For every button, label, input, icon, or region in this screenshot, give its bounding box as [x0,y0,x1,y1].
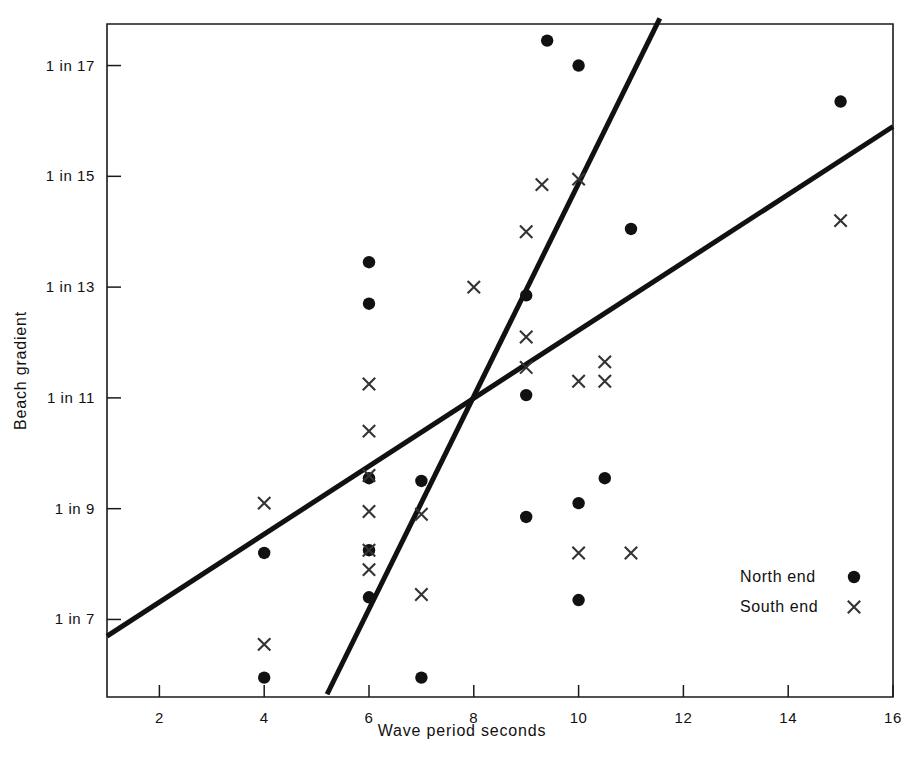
data-point-north-end [258,547,270,559]
data-point-south-end [599,356,611,368]
data-point-north-end [572,59,584,71]
data-point-south-end [520,331,532,343]
data-point-north-end [599,472,611,484]
data-point-south-end [599,375,611,387]
data-point-south-end [625,547,637,559]
data-point-north-end [258,671,270,683]
data-point-north-end [363,591,375,603]
data-point-south-end [572,547,584,559]
data-point-north-end [520,289,532,301]
data-point-north-end [572,594,584,606]
data-point-north-end [625,223,637,235]
scatter-plot-canvas: 2468101214161 in 71 in 91 in 111 in 131 … [0,0,916,757]
legend-marker-circle [848,571,860,583]
x-axis-title: Wave period seconds [378,722,546,739]
legend-label-south-end: South end [740,598,818,615]
data-point-north-end [834,95,846,107]
data-point-south-end [363,425,375,437]
data-point-south-end [258,497,270,509]
x-axis-tick-label: 6 [365,709,374,726]
data-point-south-end [258,638,270,650]
x-axis-tick-label: 16 [884,709,902,726]
data-point-north-end [572,497,584,509]
data-point-south-end [834,214,846,226]
chart-figure: 2468101214161 in 71 in 91 in 111 in 131 … [0,0,916,757]
data-point-south-end [572,375,584,387]
plot-frame [107,24,893,697]
data-point-north-end [363,298,375,310]
data-point-south-end [363,378,375,390]
legend-label-north-end: North end [740,568,816,585]
legend-marker-cross [848,601,860,613]
y-axis-title: Beach gradient [12,311,29,430]
x-axis-tick-label: 10 [570,709,588,726]
data-point-north-end [415,475,427,487]
data-point-north-end [541,34,553,46]
data-point-south-end [363,505,375,517]
x-axis-tick-label: 14 [779,709,797,726]
data-point-south-end [536,178,548,190]
y-axis-tick-label: 1 in 9 [55,500,95,517]
y-axis-tick-label: 1 in 17 [46,57,95,74]
data-point-south-end [520,226,532,238]
x-axis-tick-label: 4 [260,709,269,726]
data-point-north-end [520,389,532,401]
x-axis-tick-label: 12 [674,709,692,726]
x-axis-tick-label: 2 [155,709,164,726]
y-axis-tick-label: 1 in 15 [46,167,95,184]
data-point-north-end [415,671,427,683]
data-point-south-end [415,588,427,600]
data-point-north-end [520,511,532,523]
data-point-south-end [468,281,480,293]
y-axis-tick-label: 1 in 13 [46,278,95,295]
data-point-north-end [363,256,375,268]
shallow-trend-line [107,126,893,636]
data-point-north-end [363,472,375,484]
y-axis-tick-label: 1 in 7 [55,610,95,627]
y-axis-tick-label: 1 in 11 [47,389,95,406]
data-point-south-end [363,563,375,575]
